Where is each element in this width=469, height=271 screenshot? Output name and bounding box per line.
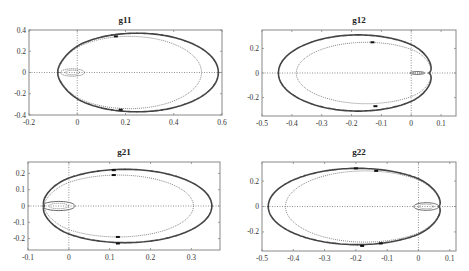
x-tick-label: 0.4 xyxy=(169,118,179,127)
x-tick-label: 0 xyxy=(409,119,413,128)
x-tick-label: 0.1 xyxy=(105,253,115,262)
marker xyxy=(354,167,358,169)
x-tick-label: 0.2 xyxy=(121,118,131,127)
axes-frame xyxy=(262,30,456,116)
x-tick-label: 0.1 xyxy=(436,119,446,128)
axes-g12: -0.5-0.4-0.3-0.2-0.100.1-0.200.2 xyxy=(247,30,456,128)
plot-canvas: -0.200.20.40.6-0.4-0.200.20.4-0.5-0.4-0.… xyxy=(0,0,469,271)
axes-g21: -0.100.10.20.3-0.2-0.100.10.2 xyxy=(13,162,220,262)
marker xyxy=(114,35,118,37)
marker xyxy=(112,169,116,171)
x-tick-label: -0.5 xyxy=(256,119,268,128)
x-tick-label: 0 xyxy=(75,118,79,127)
x-tick-label: -0.5 xyxy=(256,254,268,263)
axes-frame xyxy=(262,162,456,251)
x-tick-label: -0.1 xyxy=(375,119,387,128)
marker xyxy=(112,174,116,176)
marker xyxy=(119,109,123,111)
y-tick-label: 0.2 xyxy=(16,169,26,178)
x-tick-label: -0.2 xyxy=(346,119,358,128)
x-tick-label: -0.2 xyxy=(350,254,362,263)
marker xyxy=(373,105,377,107)
y-tick-label: 0.1 xyxy=(16,185,26,194)
y-tick-label: -0.2 xyxy=(247,227,259,236)
y-tick-label: -0.2 xyxy=(247,93,259,102)
marker xyxy=(116,242,120,244)
y-tick-label: 0 xyxy=(22,68,26,77)
curve-inner-nominal xyxy=(296,42,430,103)
y-tick-label: -0.2 xyxy=(14,89,26,98)
x-tick-label: -0.3 xyxy=(316,119,328,128)
y-tick-label: 0.2 xyxy=(250,44,260,53)
x-tick-label: -0.3 xyxy=(319,254,331,263)
marker xyxy=(374,170,378,172)
axes-g11: -0.200.20.40.6-0.4-0.200.20.4 xyxy=(14,26,227,128)
y-tick-label: -0.1 xyxy=(13,218,25,227)
x-tick-label: -0.4 xyxy=(287,254,299,263)
y-tick-label: -0.4 xyxy=(14,111,26,120)
x-tick-label: 0.2 xyxy=(146,253,156,262)
x-tick-label: -0.1 xyxy=(381,254,393,263)
axes-g22: -0.5-0.4-0.3-0.2-0.100.1-0.200.2 xyxy=(247,162,456,263)
y-tick-label: 0 xyxy=(255,69,259,78)
x-tick-label: -0.4 xyxy=(286,119,298,128)
x-tick-label: 0.1 xyxy=(445,254,455,263)
marker xyxy=(370,41,374,43)
y-tick-label: 0.2 xyxy=(17,47,27,56)
figure: g11 g12 g21 g22 -0.200.20.40.6-0.4-0.200… xyxy=(0,0,469,271)
x-tick-label: 0.6 xyxy=(217,118,227,127)
x-tick-label: 0 xyxy=(417,254,421,263)
y-tick-label: 0 xyxy=(21,202,25,211)
marker xyxy=(116,236,120,238)
x-tick-label: -0.1 xyxy=(22,253,34,262)
marker xyxy=(379,242,383,244)
y-tick-label: 0.2 xyxy=(250,177,260,186)
curve-outer-envelope xyxy=(268,168,440,244)
x-tick-label: 0.3 xyxy=(187,253,197,262)
y-tick-label: -0.2 xyxy=(13,234,25,243)
y-tick-label: 0 xyxy=(255,202,259,211)
marker xyxy=(360,245,364,247)
x-tick-label: 0 xyxy=(67,253,71,262)
y-tick-label: 0.4 xyxy=(17,26,27,35)
